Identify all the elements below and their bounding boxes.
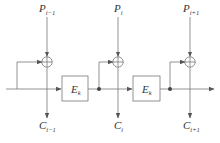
- block-label-1: Ek: [70, 83, 81, 97]
- cipher-diagram: Ek Ek Pi−1 Pi Pi+1 Ci−1 Ci Ci+1: [0, 0, 220, 143]
- plaintext-label-2: Pi: [113, 2, 123, 16]
- ciphertext-label-2: Ci: [114, 119, 123, 133]
- ciphertext-label-3: Ci+1: [183, 119, 200, 133]
- xor-operator-icon: [113, 57, 123, 67]
- feedback-line-3: [170, 62, 185, 89]
- xor-operator-icon: [42, 57, 52, 67]
- xor-operator-icon: [185, 57, 195, 67]
- feedback-line-2: [99, 62, 113, 89]
- block-label-2: Ek: [141, 83, 152, 97]
- junction-dot-icon: [168, 87, 172, 91]
- plaintext-label-1: Pi−1: [38, 2, 55, 16]
- feedback-line-1: [17, 62, 42, 89]
- ciphertext-label-1: Ci−1: [39, 119, 56, 133]
- junction-dot-icon: [97, 87, 101, 91]
- plaintext-label-3: Pi+1: [182, 2, 199, 16]
